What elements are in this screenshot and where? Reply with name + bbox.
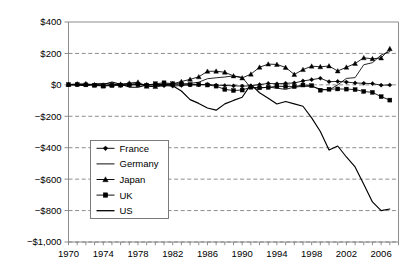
marker-square — [292, 85, 296, 89]
line-chart: $400$200$0−$200−$400−$600−$800−$1,000 19… — [0, 0, 416, 278]
marker-square — [275, 84, 279, 88]
y-axis-tick-label: −$1,000 — [27, 236, 62, 247]
marker-square — [336, 87, 340, 91]
marker-square — [388, 98, 392, 102]
chart-background — [0, 0, 416, 278]
y-axis-tick-label: −$800 — [35, 205, 62, 216]
x-axis-tick-label: 1974 — [93, 248, 114, 259]
marker-square — [214, 84, 218, 88]
marker-square — [379, 95, 383, 99]
legend-label: UK — [120, 190, 134, 201]
marker-square — [110, 83, 114, 87]
marker-square — [301, 83, 305, 87]
marker-square — [197, 82, 201, 86]
legend-label: Japan — [120, 174, 146, 185]
marker-square — [103, 193, 108, 198]
y-axis-tick-label: $0 — [51, 79, 62, 90]
x-axis-tick-label: 1998 — [301, 248, 322, 259]
x-axis-tick-label: 1986 — [197, 248, 218, 259]
chart-container: $400$200$0−$200−$400−$600−$800−$1,000 19… — [0, 0, 416, 278]
legend-label: US — [120, 205, 133, 216]
x-axis-tick-label: 1978 — [127, 248, 148, 259]
marker-square — [188, 83, 192, 87]
marker-square — [240, 88, 244, 92]
x-axis-tick-label: 1990 — [232, 248, 253, 259]
chart-legend[interactable]: FranceGermanyJapanUKUS — [91, 141, 169, 219]
x-axis-tick-label: 1994 — [266, 248, 287, 259]
y-axis-tick-label: −$200 — [35, 111, 62, 122]
y-axis-tick-label: $400 — [40, 16, 61, 27]
marker-square — [266, 85, 270, 89]
marker-square — [284, 85, 288, 89]
y-axis-tick-label: −$600 — [35, 174, 62, 185]
legend-label: France — [120, 143, 150, 154]
marker-square — [310, 84, 314, 88]
marker-square — [258, 86, 262, 90]
y-axis-tick-label: −$400 — [35, 142, 62, 153]
marker-square — [179, 82, 183, 86]
x-axis-tick-label: 2002 — [336, 248, 357, 259]
marker-square — [232, 89, 236, 93]
marker-square — [362, 89, 366, 93]
x-axis-tick-label: 1982 — [162, 248, 183, 259]
x-axis-tick-label: 2006 — [371, 248, 392, 259]
marker-square — [327, 87, 331, 91]
marker-square — [370, 90, 374, 94]
marker-square — [344, 87, 348, 91]
marker-square — [223, 87, 227, 91]
marker-square — [205, 83, 209, 87]
marker-square — [353, 88, 357, 92]
y-axis-tick-label: $200 — [40, 48, 61, 59]
marker-square — [136, 83, 140, 87]
x-axis-tick-label: 1970 — [58, 248, 79, 259]
legend-label: Germany — [120, 158, 159, 169]
marker-square — [318, 88, 322, 92]
